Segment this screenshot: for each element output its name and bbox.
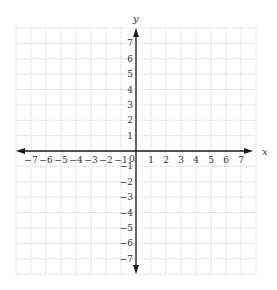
x-tick-label: 7 (238, 155, 244, 165)
x-tick-label: −7 (24, 155, 38, 165)
y-tick-label: 6 (127, 54, 133, 64)
x-tick-label: 1 (148, 155, 154, 165)
x-tick-label: 3 (178, 155, 184, 165)
y-tick-label: 1 (127, 131, 133, 141)
x-tick-label: −5 (54, 155, 68, 165)
x-tick-label: 2 (163, 155, 169, 165)
y-axis-down-arrow-icon (133, 265, 139, 274)
x-axis-right-arrow-icon (244, 148, 253, 154)
y-tick-label: 2 (127, 115, 133, 125)
x-tick-label: −4 (69, 155, 83, 165)
y-tick-label: 3 (127, 100, 133, 110)
x-tick-label: 6 (223, 155, 229, 165)
y-tick-label: −5 (120, 223, 134, 233)
y-axis-label: y (132, 13, 139, 24)
y-tick-label: −7 (120, 254, 134, 264)
y-tick-label: −3 (120, 192, 134, 202)
y-tick-label: −6 (120, 238, 134, 248)
x-tick-label: 5 (208, 155, 214, 165)
coordinate-plane-svg: −7−6−5−4−3−2−11234567 −7−6−5−4−3−2−11234… (0, 0, 277, 290)
y-tick-label: −4 (120, 208, 134, 218)
y-tick-label: 5 (127, 69, 133, 79)
x-tick-label: −6 (39, 155, 53, 165)
axes (16, 28, 253, 274)
y-tick-label: 4 (127, 85, 133, 95)
x-axis-label: x (262, 146, 268, 157)
y-axis-up-arrow-icon (133, 28, 139, 37)
x-tick-label: 4 (193, 155, 199, 165)
x-axis-left-arrow-icon (16, 148, 25, 154)
y-tick-label: 7 (127, 38, 133, 48)
x-tick-label: −2 (99, 155, 112, 165)
y-tick-label: −2 (120, 177, 133, 187)
origin-label: 0 (129, 154, 135, 164)
coordinate-plane: −7−6−5−4−3−2−11234567 −7−6−5−4−3−2−11234… (0, 0, 277, 290)
x-tick-label: −3 (84, 155, 98, 165)
